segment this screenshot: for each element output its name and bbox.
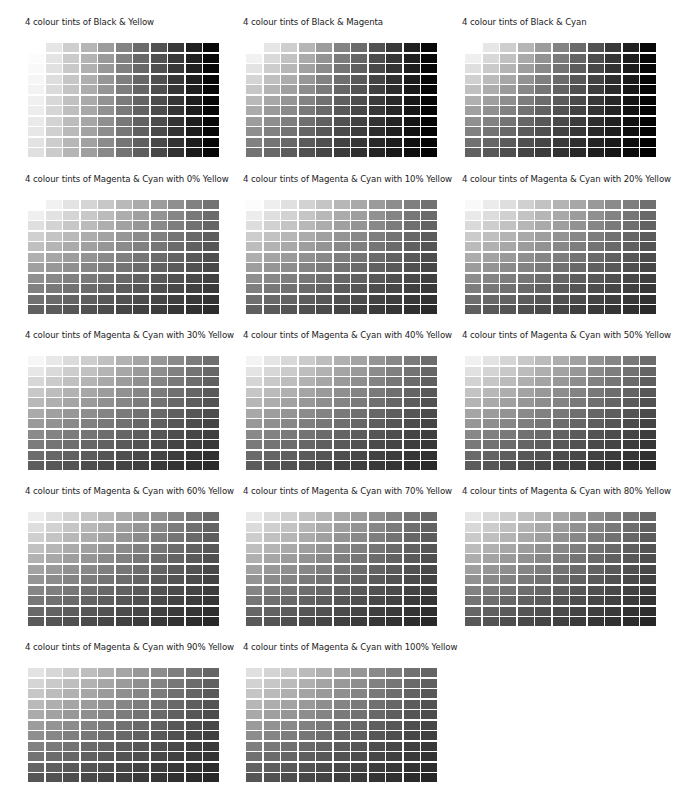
tint-swatch bbox=[246, 689, 262, 698]
tint-swatch bbox=[553, 54, 569, 63]
tint-swatch bbox=[421, 512, 437, 521]
tint-swatch bbox=[404, 544, 420, 553]
tint-swatch bbox=[386, 565, 402, 574]
tint-swatch bbox=[186, 305, 202, 314]
tint-swatch bbox=[386, 138, 402, 147]
tint-swatch bbox=[570, 586, 586, 595]
tint-swatch bbox=[203, 430, 219, 439]
tint-swatch bbox=[133, 440, 149, 449]
tint-swatch bbox=[640, 148, 656, 157]
tint-swatch bbox=[203, 367, 219, 376]
tint-swatch bbox=[316, 679, 332, 688]
tint-swatch bbox=[98, 388, 114, 397]
tint-swatch bbox=[483, 554, 499, 563]
tint-swatch bbox=[246, 440, 262, 449]
tint-swatch bbox=[500, 377, 516, 386]
tint-swatch bbox=[246, 763, 262, 772]
tint-swatch bbox=[98, 700, 114, 709]
tint-swatch bbox=[623, 138, 639, 147]
tint-swatch bbox=[605, 305, 621, 314]
tint-swatch bbox=[623, 523, 639, 532]
tint-swatch bbox=[369, 575, 385, 584]
tint-swatch bbox=[246, 731, 262, 740]
tint-swatch bbox=[500, 127, 516, 136]
tint-swatch bbox=[605, 263, 621, 272]
tint-swatch bbox=[518, 200, 534, 209]
tint-swatch bbox=[116, 367, 132, 376]
tint-swatch bbox=[246, 575, 262, 584]
tint-swatch bbox=[465, 367, 481, 376]
tint-swatch bbox=[281, 544, 297, 553]
tint-swatch bbox=[570, 617, 586, 626]
tint-swatch bbox=[133, 668, 149, 677]
tint-swatch bbox=[28, 398, 44, 407]
tint-swatch bbox=[299, 742, 315, 751]
tint-swatch bbox=[63, 75, 79, 84]
tint-swatch bbox=[168, 440, 184, 449]
tint-swatch bbox=[553, 200, 569, 209]
tint-swatch bbox=[133, 85, 149, 94]
tint-swatch bbox=[605, 127, 621, 136]
tint-swatch bbox=[404, 221, 420, 230]
tint-swatch bbox=[518, 305, 534, 314]
tint-swatch bbox=[316, 575, 332, 584]
tint-swatch bbox=[168, 211, 184, 220]
tint-swatch bbox=[316, 763, 332, 772]
tint-swatch bbox=[246, 607, 262, 616]
tint-swatch bbox=[28, 451, 44, 460]
tint-swatch bbox=[421, 85, 437, 94]
tint-swatch bbox=[605, 85, 621, 94]
tint-swatch bbox=[264, 586, 280, 595]
tint-swatch bbox=[133, 752, 149, 761]
tint-swatch bbox=[186, 773, 202, 782]
tint-swatch bbox=[186, 263, 202, 272]
tint-swatch bbox=[640, 64, 656, 73]
tint-swatch bbox=[518, 85, 534, 94]
tint-swatch bbox=[203, 679, 219, 688]
tint-swatch bbox=[483, 75, 499, 84]
tint-swatch bbox=[98, 451, 114, 460]
tint-swatch bbox=[588, 398, 604, 407]
tint-swatch bbox=[351, 617, 367, 626]
tint-swatch bbox=[351, 356, 367, 365]
tint-swatch bbox=[186, 64, 202, 73]
tint-swatch bbox=[246, 512, 262, 521]
tint-swatch bbox=[299, 451, 315, 460]
tint-swatch bbox=[98, 54, 114, 63]
tint-swatch bbox=[203, 106, 219, 115]
tint-swatch bbox=[623, 96, 639, 105]
tint-swatch bbox=[46, 43, 62, 52]
tint-swatch bbox=[588, 295, 604, 304]
tint-swatch bbox=[28, 295, 44, 304]
tint-swatch bbox=[369, 565, 385, 574]
tint-swatch bbox=[518, 106, 534, 115]
tint-swatch bbox=[264, 221, 280, 230]
tint-swatch bbox=[281, 242, 297, 251]
tint-swatch bbox=[483, 440, 499, 449]
tint-swatch bbox=[63, 586, 79, 595]
tint-swatch bbox=[369, 388, 385, 397]
tint-swatch bbox=[500, 242, 516, 251]
tint-swatch bbox=[133, 398, 149, 407]
tint-swatch bbox=[623, 200, 639, 209]
tint-swatch bbox=[386, 430, 402, 439]
tint-swatch bbox=[605, 117, 621, 126]
tint-swatch bbox=[316, 211, 332, 220]
tint-swatch bbox=[299, 106, 315, 115]
tint-swatch bbox=[81, 451, 97, 460]
tint-swatch bbox=[640, 43, 656, 52]
tint-swatch bbox=[483, 533, 499, 542]
tint-swatch bbox=[246, 295, 262, 304]
tint-swatch bbox=[605, 54, 621, 63]
tint-swatch bbox=[28, 430, 44, 439]
tint-swatch bbox=[351, 679, 367, 688]
tint-swatch bbox=[116, 565, 132, 574]
tint-swatch bbox=[518, 596, 534, 605]
tint-swatch bbox=[63, 398, 79, 407]
tint-swatch bbox=[386, 461, 402, 470]
tint-swatch bbox=[623, 85, 639, 94]
tint-swatch bbox=[203, 356, 219, 365]
tint-swatch bbox=[168, 284, 184, 293]
tint-swatch bbox=[386, 211, 402, 220]
tint-swatch bbox=[553, 544, 569, 553]
